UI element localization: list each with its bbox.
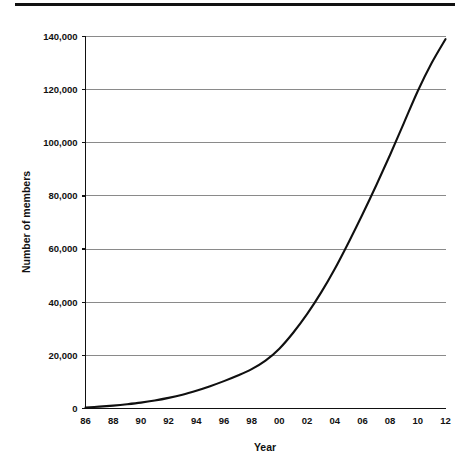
figure-container: 020,00040,00060,00080,000100,000120,0001…: [0, 0, 471, 474]
y-axis-ticks-group: 020,00040,00060,00080,000100,000120,0001…: [43, 31, 85, 414]
y-axis-tick-label: 120,000: [43, 84, 77, 95]
x-axis-tick-label: 90: [136, 415, 147, 426]
x-axis-tick-label: 88: [108, 415, 119, 426]
y-axis-tick-label: 60,000: [48, 243, 77, 254]
line-chart: 020,00040,00060,00080,000100,000120,0001…: [0, 0, 471, 474]
axis-titles-group: Number of members Year: [20, 171, 276, 453]
y-axis-tick-label: 80,000: [48, 190, 77, 201]
x-axis-title: Year: [254, 441, 276, 453]
y-axis-tick-label: 0: [72, 403, 77, 414]
x-axis-tick-label: 10: [413, 415, 424, 426]
y-axis-title: Number of members: [20, 171, 32, 273]
x-axis-tick-label: 92: [163, 415, 174, 426]
data-series-group: [86, 39, 446, 407]
x-axis-tick-label: 08: [385, 415, 396, 426]
x-axis-tick-label: 04: [329, 415, 340, 426]
x-axis-tick-label: 12: [440, 415, 451, 426]
x-axis-tick-label: 00: [274, 415, 285, 426]
x-axis-tick-label: 94: [191, 415, 202, 426]
x-axis-ticks-group: 8688909294969800020406081012: [80, 415, 451, 426]
axes-group: [86, 37, 446, 409]
y-axis-tick-label: 100,000: [43, 137, 77, 148]
y-axis-tick-label: 40,000: [48, 297, 77, 308]
x-axis-tick-label: 86: [80, 415, 91, 426]
x-axis-tick-label: 96: [219, 415, 230, 426]
gridlines-group: [86, 37, 446, 356]
y-axis-tick-label: 20,000: [48, 350, 77, 361]
data-series-line: [86, 39, 446, 407]
y-axis-tick-label: 140,000: [43, 31, 77, 42]
x-axis-tick-label: 02: [302, 415, 313, 426]
x-axis-tick-label: 98: [246, 415, 257, 426]
chart-plot-area: 020,00040,00060,00080,000100,000120,0001…: [0, 0, 471, 474]
x-axis-tick-label: 06: [357, 415, 368, 426]
